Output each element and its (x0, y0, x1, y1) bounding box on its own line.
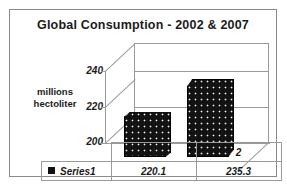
legend-label-series1: Series1 (60, 166, 96, 177)
value-cell-series1-category-1: 220.1 (111, 162, 196, 181)
plot-area: 240 220 200 (70, 32, 275, 142)
y-tick-label-220: 220 (69, 101, 103, 112)
depth-line-middle (105, 79, 136, 108)
legend-swatch-icon (48, 167, 55, 174)
value-cell-series1-category-2: 235.3 (196, 162, 281, 181)
chart-title: Global Consumption - 2002 & 2007 (10, 18, 276, 32)
chart-frame: Global Consumption - 2002 & 2007 million… (9, 9, 277, 177)
depth-line-top (105, 43, 136, 72)
table-row-categories: 1 2 (42, 143, 282, 162)
category-header-1: 1 (111, 143, 196, 162)
y-tick-label-240: 240 (69, 65, 103, 76)
table-row: Series1 220.1 235.3 (42, 162, 282, 181)
category-header-2: 2 (196, 143, 281, 162)
gridline-240 (135, 71, 268, 72)
legend-item-series1[interactable]: Series1 (42, 162, 112, 181)
data-table: 1 2 Series1 220.1 235.3 (41, 142, 282, 181)
table-corner-cell (42, 143, 112, 162)
